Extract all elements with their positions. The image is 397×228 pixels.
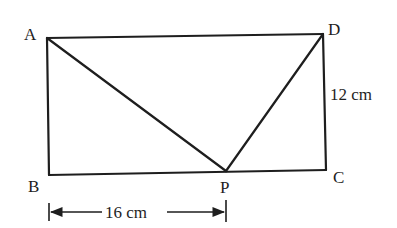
segment-DC: [323, 34, 326, 170]
label-C: C: [333, 168, 344, 187]
segment-CB: [49, 170, 326, 175]
label-D: D: [328, 20, 340, 39]
segment-DP: [226, 34, 323, 171]
label-P: P: [220, 178, 229, 197]
segment-BA: [47, 38, 49, 175]
measure-DC: 12 cm: [330, 85, 372, 104]
measure-BP: 16 cm: [105, 203, 147, 222]
geometry-diagram: A D B C P 12 cm 16 cm: [0, 0, 397, 228]
segment-AP: [47, 38, 226, 171]
label-B: B: [28, 177, 39, 196]
segment-AD: [47, 34, 323, 38]
label-A: A: [24, 25, 37, 44]
